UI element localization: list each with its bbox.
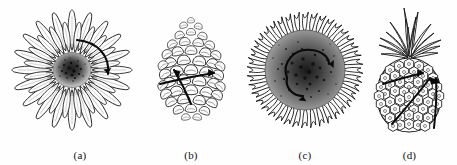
- panel-label-d: (d): [362, 149, 457, 161]
- sunflower-seed-disk: [265, 30, 345, 110]
- panel-label-b: (b): [128, 149, 254, 161]
- daisy-center-disk: [53, 53, 91, 88]
- sunflower-icon: [240, 0, 370, 140]
- pineapple-crown: [379, 8, 441, 58]
- pine-cone-icon: [128, 0, 254, 140]
- pineapple-icon: [362, 0, 457, 140]
- panel-pineapple: [362, 0, 457, 140]
- panel-sunflower: [240, 0, 370, 140]
- panel-pine-cone: [128, 0, 254, 140]
- panel-label-c: (c): [240, 149, 370, 161]
- phyllotaxis-figure: (a): [0, 0, 457, 165]
